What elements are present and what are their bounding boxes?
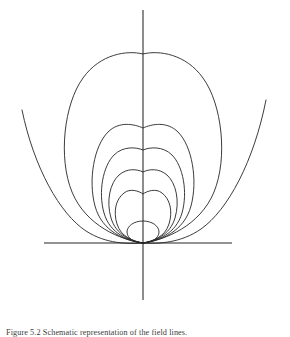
figure-page: Figure 5.2 Schematic representation of t… [0,0,290,337]
figure-caption: Figure 5.2 Schematic representation of t… [6,328,284,337]
field-curve-group [22,53,266,244]
figure-caption-area: Figure 5.2 Schematic representation of t… [0,328,290,337]
field-line-diagram [0,0,290,320]
